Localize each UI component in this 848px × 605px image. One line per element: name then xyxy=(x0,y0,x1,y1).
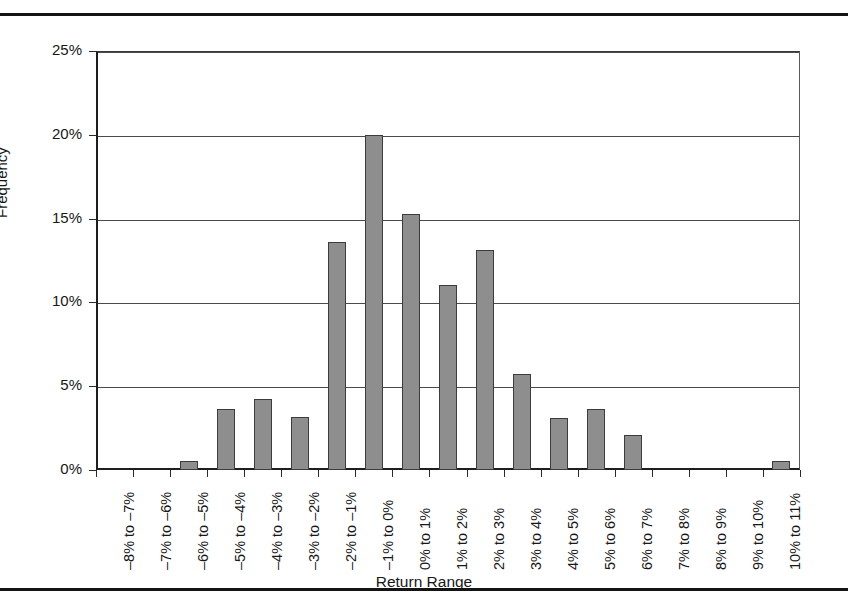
x-tick-label: 9% to 10% xyxy=(750,500,766,570)
x-tick-label: 7% to 8% xyxy=(676,508,692,570)
x-tick-label: 6% to 7% xyxy=(639,508,655,570)
bar xyxy=(476,250,494,470)
y-tick-mark-20 xyxy=(89,135,96,136)
bar xyxy=(624,435,642,470)
bar xyxy=(587,409,605,470)
y-tick-mark-25 xyxy=(89,51,96,52)
x-tick-label: –8% to –7% xyxy=(121,492,137,570)
x-tick-label: 8% to 9% xyxy=(713,508,729,570)
y-tick-mark-5 xyxy=(89,386,96,387)
x-tick-label: 4% to 5% xyxy=(565,508,581,570)
y-tick-mark-15 xyxy=(89,219,96,220)
bar xyxy=(550,418,568,470)
x-tick-label: 0% to 1% xyxy=(417,508,433,570)
x-tick-label: –7% to –6% xyxy=(158,492,174,570)
y-tick-label-0%: 0% xyxy=(30,460,82,477)
bar xyxy=(254,399,272,470)
bar xyxy=(291,417,309,470)
x-tick-label: 10% to 11% xyxy=(787,493,803,570)
bar xyxy=(513,374,531,470)
x-tick-label: 2% to 3% xyxy=(491,508,507,570)
bar xyxy=(439,285,457,470)
histogram-chart: Frequency 0%5%10%15%20%25% –8% to –7%–7%… xyxy=(0,0,848,605)
y-tick-label-15%: 15% xyxy=(30,209,82,226)
x-axis-title: Return Range xyxy=(0,573,848,591)
bar xyxy=(772,461,790,470)
x-tick-mark xyxy=(800,470,801,477)
x-tick-label: –6% to –5% xyxy=(195,492,211,570)
y-axis-title: Frequency xyxy=(0,147,10,218)
x-tick-label: 5% to 6% xyxy=(602,508,618,570)
bar xyxy=(365,135,383,470)
x-tick-label: –3% to –2% xyxy=(306,492,322,570)
x-tick-label: –5% to –4% xyxy=(232,492,248,570)
bar xyxy=(180,461,198,470)
y-tick-mark-0 xyxy=(89,470,96,471)
y-tick-label-25%: 25% xyxy=(30,41,82,58)
x-tick-label: –1% to 0% xyxy=(380,500,396,570)
bar-series xyxy=(96,51,800,470)
y-tick-label-10%: 10% xyxy=(30,292,82,309)
x-axis-labels: –8% to –7%–7% to –6%–6% to –5%–5% to –4%… xyxy=(96,474,800,574)
x-tick-label: 3% to 4% xyxy=(528,508,544,570)
x-tick-label: –4% to –3% xyxy=(269,492,285,570)
bar xyxy=(402,214,420,470)
bar xyxy=(328,242,346,470)
y-tick-label-20%: 20% xyxy=(30,125,82,142)
y-tick-mark-10 xyxy=(89,302,96,303)
x-tick-label: 1% to 2% xyxy=(454,508,470,570)
x-tick-label: –2% to –1% xyxy=(343,492,359,570)
y-tick-label-5%: 5% xyxy=(30,376,82,393)
bar xyxy=(217,409,235,470)
